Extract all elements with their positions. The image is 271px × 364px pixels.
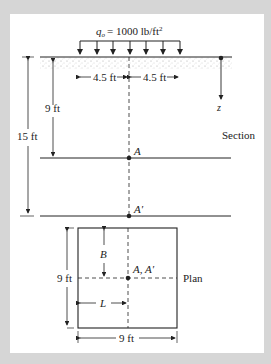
soil-hatch [40,57,232,69]
plan-title: Plan [183,272,203,284]
stress-diagram: qo= 1000 lb/ft2 4.5 ft 4.5 ft z 9 ft 15 … [0,0,271,364]
dim-L: L [99,297,106,309]
distributed-load [80,41,180,54]
dim-plan-vertical: 9 ft [57,272,72,284]
section-title: Section [222,129,255,141]
z-axis-label: z [216,102,221,113]
point-A [127,156,132,161]
label-A: A [133,145,141,157]
dim-right-4-5: 4.5 ft [143,71,166,83]
point-A-prime [127,214,132,219]
dim-depth-15: 15 ft [17,130,37,142]
load-label: qo= 1000 lb/ft2 [96,25,163,39]
dim-left-4-5: 4.5 ft [93,71,116,83]
plan-center-label: A, A′ [132,263,155,275]
dim-B: B [100,248,107,260]
dim-depth-9: 9 ft [45,102,60,114]
label-A-prime: A′ [133,203,144,215]
dim-plan-horizontal: 9 ft [119,332,134,344]
plan-center-point [126,276,131,281]
